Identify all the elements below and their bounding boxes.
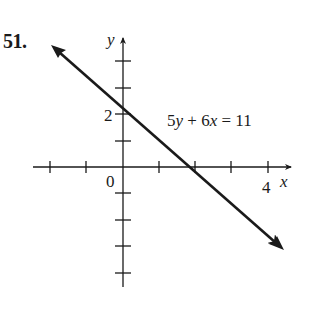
origin-label: 0: [106, 173, 115, 190]
y-axis-label: y: [107, 31, 115, 48]
y-tick-label-2: 2: [104, 107, 113, 124]
equation-label: 5y + 6x = 11: [167, 112, 252, 129]
eq-equals: =: [217, 111, 235, 130]
x-axis: [33, 161, 291, 173]
equation-line: [55, 49, 280, 247]
coordinate-graph: [0, 0, 309, 309]
x-tick-label-4: 4: [262, 179, 271, 196]
eq-var-y: y: [176, 111, 184, 130]
eq-rhs: 11: [235, 111, 251, 130]
y-axis: [115, 38, 131, 287]
x-axis-label: x: [280, 173, 288, 190]
eq-plus: +: [183, 111, 201, 130]
eq-coef-x: 6: [201, 111, 210, 130]
eq-coef-y: 5: [167, 111, 176, 130]
